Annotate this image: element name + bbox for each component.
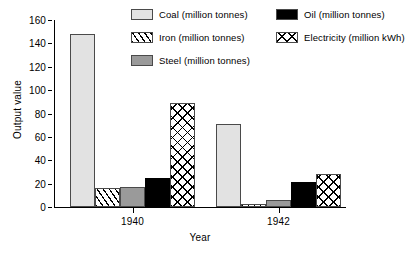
bar-iron-1942: [241, 204, 266, 208]
bar-oil-1942: [291, 182, 316, 207]
bar-oil-1940: [145, 178, 170, 207]
y-tick-mark: [48, 160, 52, 161]
y-axis: 020406080100120140160: [0, 0, 54, 255]
legend-label: Oil (million tonnes): [304, 9, 385, 20]
y-tick-mark: [48, 114, 52, 115]
x-group-label-1940: 1940: [121, 216, 144, 227]
legend-swatch-oil-icon: [276, 9, 298, 20]
legend-swatch-electricity-icon: [276, 32, 298, 43]
y-tick-mark: [48, 43, 52, 44]
y-axis-line: [54, 20, 55, 207]
legend-item-oil: Oil (million tonnes): [276, 9, 385, 20]
legend-item-electricity: Electricity (million kWh): [276, 32, 405, 43]
x-axis-line: [54, 207, 346, 208]
legend-item-iron: Iron (million tonnes): [131, 32, 245, 43]
y-tick-mark: [48, 67, 52, 68]
legend-label: Electricity (million kWh): [304, 32, 405, 43]
y-tick-mark: [48, 20, 52, 21]
x-tick-mark: [133, 208, 134, 213]
y-tick-label: 80: [6, 108, 46, 119]
y-tick-label: 160: [6, 15, 46, 26]
legend-swatch-coal-icon: [131, 9, 153, 20]
bar-electricity-1940: [170, 103, 195, 207]
y-tick-label: 0: [6, 202, 46, 213]
y-tick-label: 120: [6, 61, 46, 72]
bar-coal-1942: [216, 124, 241, 207]
y-tick-label: 20: [6, 178, 46, 189]
x-group-label-1942: 1942: [267, 216, 290, 227]
y-tick-mark: [48, 90, 52, 91]
y-tick-label: 140: [6, 38, 46, 49]
bar-steel-1940: [120, 187, 145, 207]
legend-item-steel: Steel (million tonnes): [131, 55, 250, 66]
legend-item-coal: Coal (million tonnes): [131, 9, 248, 20]
y-tick-mark: [48, 137, 52, 138]
legend-label: Coal (million tonnes): [159, 9, 248, 20]
y-tick-label: 60: [6, 131, 46, 142]
y-tick-label: 100: [6, 85, 46, 96]
y-tick-label: 40: [6, 155, 46, 166]
chart-legend: Coal (million tonnes)Iron (million tonne…: [131, 9, 405, 71]
y-tick-mark: [48, 184, 52, 185]
legend-swatch-steel-icon: [131, 55, 153, 66]
x-tick-mark: [279, 208, 280, 213]
legend-swatch-iron-icon: [131, 32, 153, 43]
bar-coal-1940: [70, 34, 95, 207]
bar-steel-1942: [266, 200, 291, 207]
y-tick-mark: [48, 207, 52, 208]
legend-label: Steel (million tonnes): [159, 55, 250, 66]
legend-label: Iron (million tonnes): [159, 32, 245, 43]
bar-chart: Output value 020406080100120140160 19401…: [0, 0, 407, 255]
bar-electricity-1942: [316, 174, 341, 207]
bar-iron-1940: [95, 188, 120, 207]
x-axis-title: Year: [54, 232, 346, 243]
